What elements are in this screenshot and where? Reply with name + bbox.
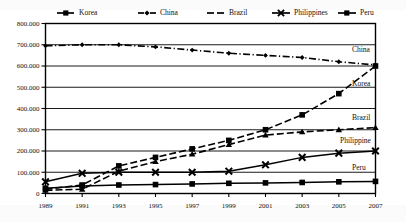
data-point-square xyxy=(79,183,85,189)
x-axis-tick-label: 1989 xyxy=(39,202,54,210)
chart-canvas: KoreaChinaBrazilPhilippinesPeru0100.0002… xyxy=(0,0,406,222)
data-point-square xyxy=(116,163,122,169)
y-axis-tick-label: 800.000 xyxy=(17,20,40,28)
x-axis-tick-label: 2007 xyxy=(369,202,384,210)
data-point-square xyxy=(189,181,195,187)
series-end-label-brazil: Brazil xyxy=(352,113,370,122)
y-axis-tick-label: 100.000 xyxy=(17,169,40,177)
y-axis-tick-label: 200.000 xyxy=(17,147,40,155)
data-point-square xyxy=(116,182,122,188)
data-point-square xyxy=(189,146,195,152)
line-chart: KoreaChinaBrazilPhilippinesPeru0100.0002… xyxy=(0,0,406,222)
legend-square-marker xyxy=(344,10,349,15)
x-axis-tick-label: 2001 xyxy=(259,202,274,210)
series-end-label-korea: Korea xyxy=(352,79,371,88)
y-axis-tick-label: 700.000 xyxy=(17,41,40,49)
scan-noise xyxy=(0,0,406,10)
series-end-label-peru: Peru xyxy=(352,163,366,172)
y-axis-tick-label: 0 xyxy=(36,190,40,198)
series-end-label-china: China xyxy=(352,45,371,54)
x-axis-tick-label: 2003 xyxy=(295,202,310,210)
data-point-square xyxy=(299,112,305,118)
legend-label: Brazil xyxy=(229,8,247,17)
y-axis-tick-label: 600.000 xyxy=(17,62,40,70)
x-axis-tick-label: 2005 xyxy=(332,202,347,210)
y-axis-tick-label: 500.000 xyxy=(17,84,40,92)
legend-square-marker xyxy=(63,10,68,15)
data-point-square xyxy=(43,185,49,191)
series-end-label-philippine: Philippine xyxy=(340,136,372,145)
x-axis-tick-label: 1993 xyxy=(112,202,127,210)
y-axis-tick-label: 300.000 xyxy=(17,126,40,134)
data-point-square xyxy=(263,127,269,133)
data-point-square xyxy=(336,179,342,185)
data-point-square xyxy=(336,91,342,97)
x-axis-tick-label: 1997 xyxy=(185,202,200,210)
chart-background xyxy=(0,0,406,222)
x-axis-tick-label: 1995 xyxy=(149,202,164,210)
data-point-square xyxy=(153,182,159,188)
data-point-square xyxy=(263,180,269,186)
legend-label: Philippines xyxy=(294,8,328,17)
data-point-square xyxy=(299,180,305,186)
legend-label: Peru xyxy=(360,8,374,17)
data-point-square xyxy=(226,181,232,187)
y-axis-tick-label: 400.000 xyxy=(17,105,40,113)
x-axis-tick-label: 1999 xyxy=(222,202,237,210)
x-axis-tick-label: 1991 xyxy=(75,202,90,210)
legend-label: China xyxy=(160,8,179,17)
legend-label: Korea xyxy=(79,8,98,17)
data-point-square xyxy=(373,179,379,185)
